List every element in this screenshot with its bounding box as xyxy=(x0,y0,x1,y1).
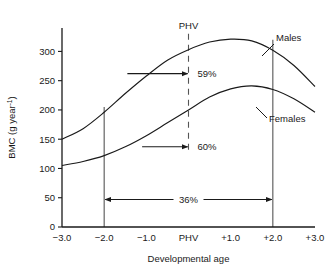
y-axis-title-main: BMC (g year xyxy=(6,105,17,158)
y-tick-label-5: 250 xyxy=(39,75,55,86)
y-tick-label-3: 150 xyxy=(39,134,55,145)
phv-top-label: PHV xyxy=(179,20,199,31)
series-label-males: Males xyxy=(276,32,302,43)
series-label-females: Females xyxy=(269,113,306,124)
x-tick-label-2: −1.0 xyxy=(137,232,156,243)
span-percent-label: 36% xyxy=(179,194,199,205)
bmc-developmental-age-chart: 050100150200250300 −3.0−2.0−1.0PHV+1.0+2… xyxy=(0,0,332,279)
females-percent-label: 60% xyxy=(198,141,218,152)
y-tick-label-1: 50 xyxy=(44,192,55,203)
y-tick-label-2: 100 xyxy=(39,163,55,174)
x-tick-label-3: PHV xyxy=(179,232,199,243)
y-tick-label-6: 300 xyxy=(39,46,55,57)
y-axis-title-tail: ) xyxy=(6,96,17,99)
x-tick-label-4: +1.0 xyxy=(221,232,240,243)
x-tick-label-1: −2.0 xyxy=(95,232,114,243)
x-tick-label-5: +2.0 xyxy=(263,232,282,243)
y-tick-label-4: 200 xyxy=(39,104,55,115)
x-axis-title: Developmental age xyxy=(148,253,230,264)
males-percent-label: 59% xyxy=(198,68,218,79)
y-axis-title: BMC (g year-1) xyxy=(6,96,17,158)
x-tick-label-0: −3.0 xyxy=(53,232,72,243)
y-tick-label-0: 0 xyxy=(50,221,55,232)
chart-svg: 050100150200250300 −3.0−2.0−1.0PHV+1.0+2… xyxy=(0,0,332,279)
x-tick-label-6: +3.0 xyxy=(306,232,325,243)
